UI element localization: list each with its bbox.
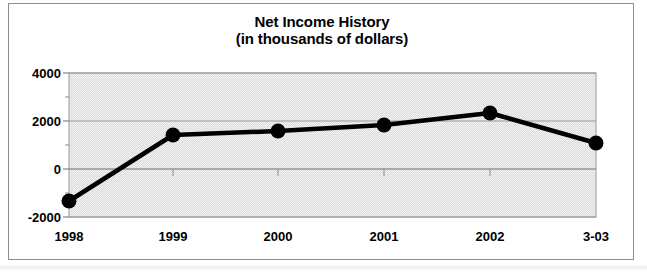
net-income-history-chart: Net Income History (in thousands of doll…	[0, 0, 647, 277]
plot-area-svg	[9, 4, 635, 261]
data-point-2001	[377, 118, 392, 133]
data-point-3-03	[589, 136, 604, 151]
x-tick-label-2001: 2001	[349, 229, 419, 244]
y-tick-label-2000: 2000	[9, 114, 61, 129]
x-tick-label-2000: 2000	[243, 229, 313, 244]
y-tick-label-4000: 4000	[9, 66, 61, 81]
y-tick-label-0: 0	[9, 162, 61, 177]
data-point-1999	[166, 128, 181, 143]
x-tick-label-2002: 2002	[455, 229, 525, 244]
x-tick-label-1998: 1998	[34, 229, 104, 244]
scan-artifact	[0, 264, 647, 271]
data-point-1998	[62, 194, 77, 209]
chart-frame-border: Net Income History (in thousands of doll…	[8, 3, 634, 260]
data-point-2002	[483, 106, 498, 121]
x-tick-label-3-03: 3-03	[561, 229, 631, 244]
data-point-2000	[271, 124, 286, 139]
plot-background	[69, 73, 596, 217]
y-tick-label--2000: -2000	[9, 210, 61, 225]
x-tick-label-1999: 1999	[138, 229, 208, 244]
